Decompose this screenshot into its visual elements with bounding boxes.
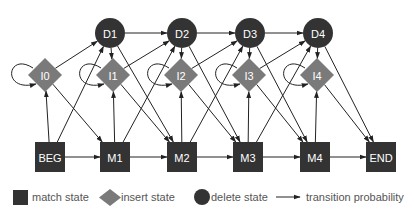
transition-M4-to-I4 [315, 92, 316, 142]
transition-I3-to-M4 [257, 84, 303, 142]
match-state-m2: M2 [167, 142, 197, 172]
match-state-m1: M1 [100, 142, 130, 172]
legend-delete: delete state [194, 189, 268, 205]
node-label: M4 [307, 152, 322, 164]
node-label: M3 [240, 152, 255, 164]
node-label: I1 [108, 70, 117, 82]
transition-D1-to-M2 [118, 46, 174, 142]
legend-transition: transition probability [276, 191, 404, 203]
legend-delete-label: delete state [211, 191, 268, 203]
transition-M1-to-D2 [123, 46, 175, 142]
node-label: I4 [312, 70, 321, 82]
insert-state-i1: I1 [96, 58, 130, 92]
node-label: BEG [38, 152, 61, 164]
state-nodes: BEGM1M2M3M4ENDI0I1I2I3I4D1D2D3D4 [28, 18, 396, 172]
match-state-end: END [366, 142, 396, 172]
node-label: D1 [103, 28, 117, 40]
insert-state-i3: I3 [232, 58, 266, 92]
insert-state-i0: I0 [28, 58, 62, 92]
match-state-m4: M4 [300, 142, 330, 172]
node-label: D4 [311, 28, 325, 40]
transition-I2-to-M3 [189, 84, 236, 142]
delete-state-d3: D3 [235, 18, 265, 48]
transition-D1-to-I1 [111, 48, 112, 59]
legend-transition-label: transition probability [306, 191, 404, 203]
transition-M2-to-D3 [190, 46, 243, 142]
profile-hmm-diagram: BEGM1M2M3M4ENDI0I1I2I3I4D1D2D3D4 match s… [0, 0, 411, 215]
match-state-m3: M3 [233, 142, 263, 172]
delete-state-d4: D4 [303, 18, 333, 48]
transition-M3-to-I3 [248, 92, 249, 142]
node-label: END [369, 152, 392, 164]
match-state-swatch [13, 190, 28, 205]
transition-BEG-to-D1 [57, 47, 103, 142]
legend-match: match state [13, 190, 89, 205]
node-label: M2 [174, 152, 189, 164]
legend: match state insert state delete state tr… [13, 189, 404, 206]
transition-M1-to-I1 [113, 92, 114, 142]
match-state-beg: BEG [35, 142, 65, 172]
transition-BEG-to-I0 [46, 91, 49, 142]
transition-edges [12, 33, 374, 157]
delete-state-d2: D2 [167, 18, 197, 48]
delete-state-swatch [194, 189, 210, 205]
node-label: I3 [244, 70, 253, 82]
legend-insert-label: insert state [121, 191, 175, 203]
transition-I0-to-M1 [53, 84, 102, 142]
legend-match-label: match state [32, 191, 89, 203]
delete-state-d1: D1 [95, 18, 125, 48]
node-label: D2 [175, 28, 189, 40]
insert-state-swatch [99, 189, 121, 206]
legend-insert: insert state [99, 189, 175, 206]
node-label: I0 [40, 70, 49, 82]
transition-I4-to-END [324, 85, 369, 142]
insert-state-i2: I2 [164, 58, 198, 92]
node-label: M1 [107, 152, 122, 164]
transition-M2-to-I2 [181, 92, 182, 142]
node-label: D3 [243, 28, 257, 40]
insert-state-i4: I4 [300, 58, 334, 92]
node-label: I2 [176, 70, 185, 82]
